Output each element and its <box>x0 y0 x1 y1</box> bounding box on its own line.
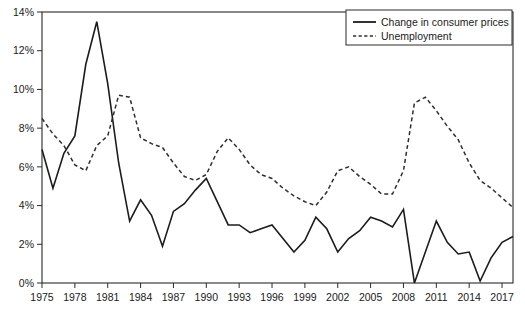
legend-label: Change in consumer prices <box>381 16 509 28</box>
x-tick-label: 1978 <box>63 291 87 303</box>
x-axis-ticks: 1975197819811984198719901993199619992002… <box>30 283 514 303</box>
x-tick-label: 2002 <box>326 291 350 303</box>
x-tick-label: 2005 <box>359 291 383 303</box>
data-series-group <box>42 22 513 283</box>
x-tick-label: 1987 <box>162 291 186 303</box>
x-tick-label: 1981 <box>96 291 120 303</box>
y-tick-label: 8% <box>19 122 34 134</box>
x-tick-label: 1999 <box>293 291 317 303</box>
y-tick-label: 14% <box>13 6 34 18</box>
chart-legend: Change in consumer pricesUnemployment <box>346 10 512 45</box>
x-tick-label: 1990 <box>195 291 219 303</box>
legend-label: Unemployment <box>381 30 452 42</box>
y-tick-label: 10% <box>13 83 34 95</box>
y-tick-label: 2% <box>19 238 34 250</box>
line-chart: 0%2%4%6%8%10%12%14% 19751978198119841987… <box>0 0 525 317</box>
series-line-1 <box>42 22 513 283</box>
x-tick-label: 1984 <box>129 291 153 303</box>
x-tick-label: 2014 <box>458 291 482 303</box>
y-tick-label: 0% <box>19 277 34 289</box>
plot-area-border <box>42 12 513 283</box>
chart-container: 0%2%4%6%8%10%12%14% 19751978198119841987… <box>0 0 525 317</box>
y-axis-ticks: 0%2%4%6%8%10%12%14% <box>13 6 42 289</box>
x-tick-label: 1993 <box>227 291 251 303</box>
plot-frame-group <box>42 12 513 283</box>
y-tick-label: 6% <box>19 161 34 173</box>
x-tick-label: 2008 <box>392 291 416 303</box>
series-line-2 <box>42 95 513 207</box>
x-tick-label: 1975 <box>30 291 54 303</box>
y-tick-label: 4% <box>19 199 34 211</box>
x-tick-label: 1996 <box>260 291 284 303</box>
y-tick-label: 12% <box>13 44 34 56</box>
x-tick-label: 2017 <box>490 291 514 303</box>
x-tick-label: 2011 <box>425 291 448 303</box>
